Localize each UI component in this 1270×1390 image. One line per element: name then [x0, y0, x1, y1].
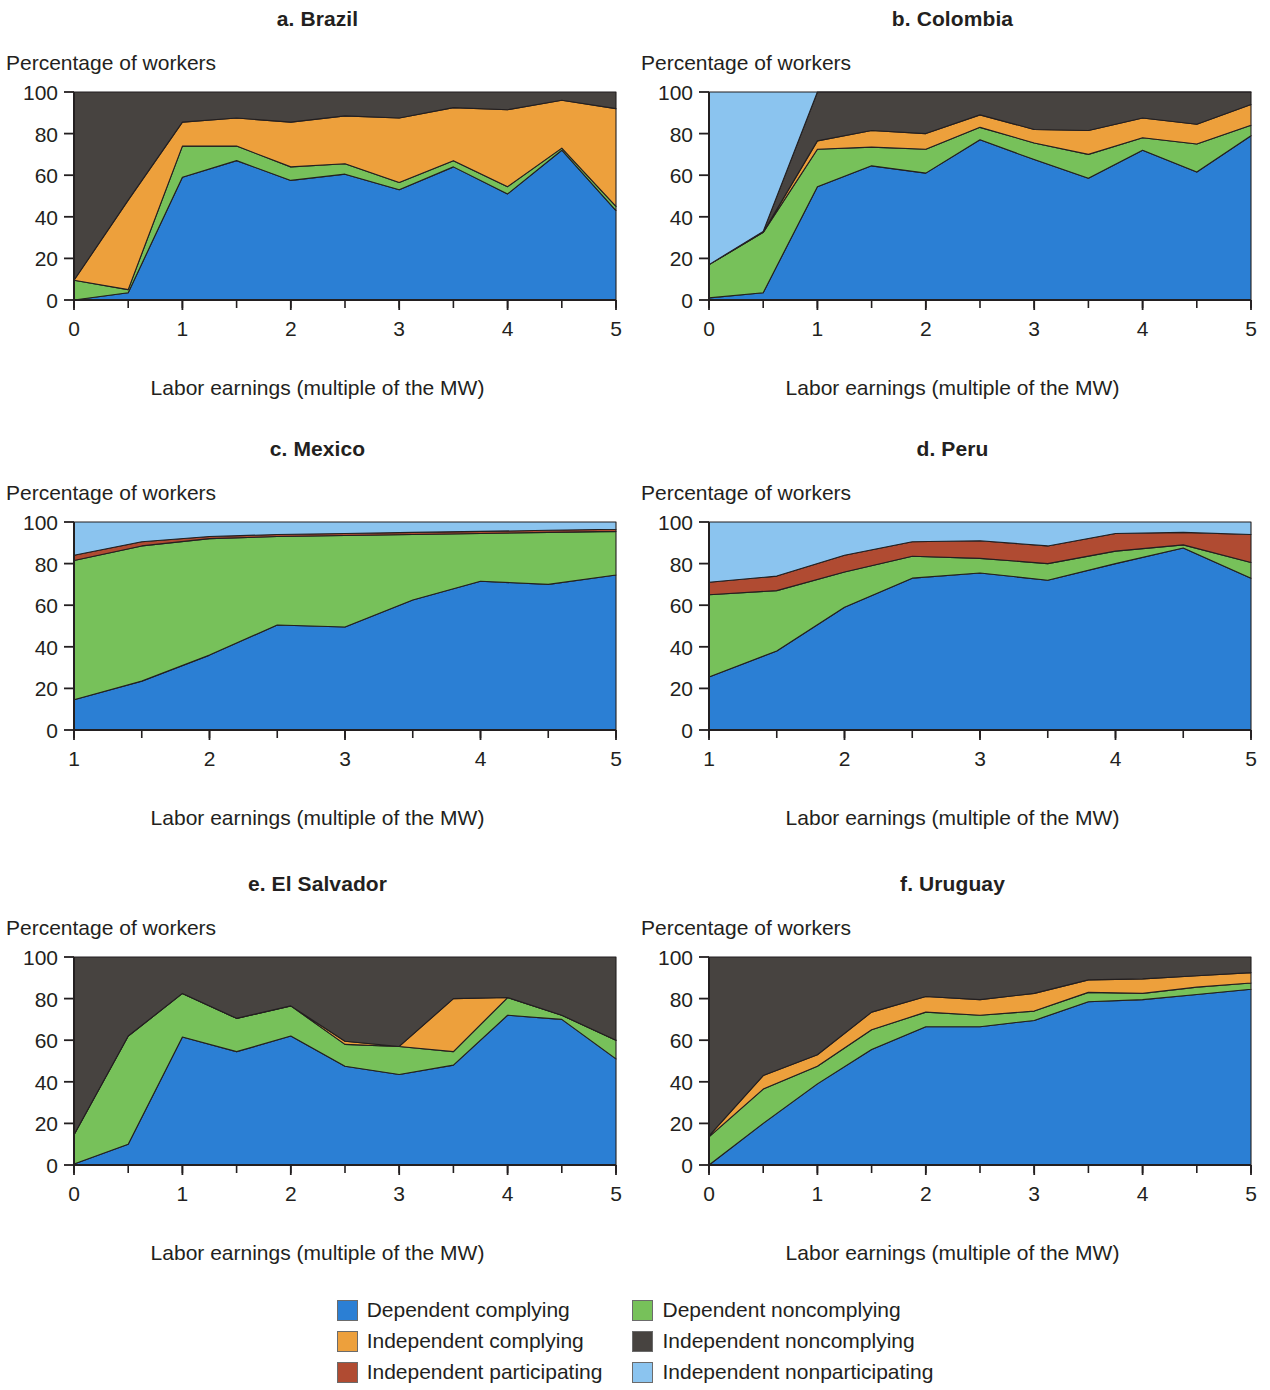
svg-text:100: 100 — [23, 514, 58, 534]
svg-text:40: 40 — [670, 636, 693, 659]
svg-text:2: 2 — [285, 317, 297, 340]
svg-text:20: 20 — [35, 677, 58, 700]
panel-b-colombia: b. Colombia Percentage of workers 020406… — [635, 0, 1270, 430]
svg-text:40: 40 — [35, 636, 58, 659]
legend-label: Dependent complying — [367, 1298, 570, 1322]
svg-text:40: 40 — [35, 206, 58, 229]
svg-text:3: 3 — [1028, 1182, 1040, 1205]
svg-text:100: 100 — [23, 84, 58, 104]
svg-text:3: 3 — [1028, 317, 1040, 340]
plot-svg-f: 020406080100012345 — [639, 949, 1259, 1219]
panel-title: c. Mexico — [0, 430, 635, 466]
plot-area: 020406080100012345 — [639, 949, 1270, 1219]
svg-text:60: 60 — [35, 1029, 58, 1052]
panel-a-brazil: a. Brazil Percentage of workers 02040608… — [0, 0, 635, 430]
svg-text:4: 4 — [1137, 317, 1149, 340]
svg-text:2: 2 — [920, 1182, 932, 1205]
panel-d-peru: d. Peru Percentage of workers 0204060801… — [635, 430, 1270, 865]
legend-item-dependent-complying: Dependent complying — [337, 1298, 603, 1322]
svg-text:2: 2 — [285, 1182, 297, 1205]
svg-text:1: 1 — [812, 317, 824, 340]
svg-text:4: 4 — [1110, 747, 1122, 770]
svg-text:5: 5 — [610, 1182, 622, 1205]
svg-text:20: 20 — [670, 247, 693, 270]
panel-f-uruguay: f. Uruguay Percentage of workers 0204060… — [635, 865, 1270, 1285]
svg-text:4: 4 — [475, 747, 487, 770]
svg-text:0: 0 — [46, 719, 58, 742]
svg-text:100: 100 — [658, 949, 693, 969]
panel-c-mexico: c. Mexico Percentage of workers 02040608… — [0, 430, 635, 865]
svg-text:0: 0 — [681, 719, 693, 742]
svg-text:20: 20 — [35, 1112, 58, 1135]
stacked-area-figure: a. Brazil Percentage of workers 02040608… — [0, 0, 1270, 1390]
svg-text:60: 60 — [670, 164, 693, 187]
plot-svg-e: 020406080100012345 — [4, 949, 624, 1219]
legend-label: Independent complying — [367, 1329, 584, 1353]
svg-text:60: 60 — [670, 594, 693, 617]
svg-text:60: 60 — [35, 164, 58, 187]
legend-swatch-icon — [632, 1300, 653, 1321]
legend-item-independent-nonparticipating: Independent nonparticipating — [632, 1360, 933, 1384]
svg-text:0: 0 — [681, 1154, 693, 1177]
svg-text:100: 100 — [658, 84, 693, 104]
legend-item-independent-participating: Independent participating — [337, 1360, 603, 1384]
svg-text:2: 2 — [839, 747, 851, 770]
y-axis-title: Percentage of workers — [0, 36, 635, 84]
svg-text:80: 80 — [35, 988, 58, 1011]
svg-text:1: 1 — [68, 747, 80, 770]
svg-text:2: 2 — [920, 317, 932, 340]
y-axis-title: Percentage of workers — [0, 466, 635, 514]
svg-text:1: 1 — [177, 317, 189, 340]
svg-text:1: 1 — [703, 747, 715, 770]
plot-area: 02040608010012345 — [639, 514, 1270, 784]
svg-text:3: 3 — [974, 747, 986, 770]
plot-svg-a: 020406080100012345 — [4, 84, 624, 354]
svg-text:3: 3 — [393, 1182, 405, 1205]
svg-text:80: 80 — [35, 553, 58, 576]
svg-text:20: 20 — [670, 677, 693, 700]
legend-label: Independent nonparticipating — [662, 1360, 933, 1384]
legend-swatch-icon — [337, 1331, 358, 1352]
svg-text:40: 40 — [670, 1071, 693, 1094]
y-axis-title: Percentage of workers — [0, 901, 635, 949]
svg-text:100: 100 — [23, 949, 58, 969]
svg-text:4: 4 — [502, 317, 514, 340]
svg-text:5: 5 — [610, 317, 622, 340]
panel-title: f. Uruguay — [635, 865, 1270, 901]
panel-title: b. Colombia — [635, 0, 1270, 36]
svg-text:60: 60 — [35, 594, 58, 617]
svg-text:40: 40 — [670, 206, 693, 229]
x-axis-title: Labor earnings (multiple of the MW) — [0, 354, 635, 400]
x-axis-title: Labor earnings (multiple of the MW) — [635, 354, 1270, 400]
legend-label: Independent participating — [367, 1360, 603, 1384]
svg-text:80: 80 — [35, 123, 58, 146]
legend-swatch-icon — [337, 1362, 358, 1383]
svg-text:5: 5 — [1245, 747, 1257, 770]
plot-svg-c: 02040608010012345 — [4, 514, 624, 784]
svg-text:100: 100 — [658, 514, 693, 534]
x-axis-title: Labor earnings (multiple of the MW) — [0, 1219, 635, 1265]
legend: Dependent complying Dependent noncomplyi… — [0, 1298, 1270, 1384]
legend-item-independent-complying: Independent complying — [337, 1329, 603, 1353]
svg-text:0: 0 — [68, 317, 80, 340]
panel-title: d. Peru — [635, 430, 1270, 466]
legend-swatch-icon — [632, 1362, 653, 1383]
svg-text:3: 3 — [339, 747, 351, 770]
legend-item-independent-noncomplying: Independent noncomplying — [632, 1329, 933, 1353]
svg-text:20: 20 — [35, 247, 58, 270]
plot-area: 020406080100012345 — [4, 949, 635, 1219]
x-axis-title: Labor earnings (multiple of the MW) — [635, 1219, 1270, 1265]
svg-text:1: 1 — [177, 1182, 189, 1205]
panel-title: a. Brazil — [0, 0, 635, 36]
svg-text:0: 0 — [46, 289, 58, 312]
svg-text:5: 5 — [1245, 1182, 1257, 1205]
svg-text:5: 5 — [1245, 317, 1257, 340]
svg-text:0: 0 — [703, 1182, 715, 1205]
plot-area: 02040608010012345 — [4, 514, 635, 784]
legend-label: Dependent noncomplying — [662, 1298, 900, 1322]
svg-text:5: 5 — [610, 747, 622, 770]
svg-text:0: 0 — [68, 1182, 80, 1205]
svg-text:3: 3 — [393, 317, 405, 340]
legend-swatch-icon — [632, 1331, 653, 1352]
svg-text:4: 4 — [502, 1182, 514, 1205]
